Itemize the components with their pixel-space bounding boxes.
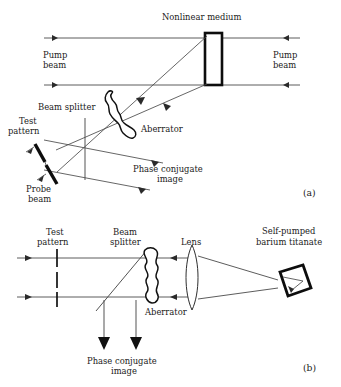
test-pattern-label-a-line2: pattern (8, 126, 40, 136)
lower-beam-b-arrowhead (25, 294, 32, 300)
aberrator-label-b: Aberrator (144, 307, 187, 317)
pump-beam-left-label-line2: beam (43, 60, 66, 70)
probe-beam-bar-a (46, 165, 57, 184)
panel-a-group: Nonlinear medium Pump beam Pump beam Bea… (8, 12, 316, 204)
beam-splitter-label-b-line2: splitter (110, 237, 141, 247)
phase-conjugate-label-a-line2: image (157, 174, 183, 184)
conjugate-return-ray-arrowhead (163, 103, 171, 111)
optics-figure-svg: Nonlinear medium Pump beam Pump beam Bea… (0, 0, 341, 387)
test-pattern-exit-ray (44, 140, 163, 163)
lower-beam-b-right-arrowhead (170, 294, 177, 300)
upper-beam-b-right-arrowhead (170, 255, 177, 261)
upper-beam-b-arrowhead (25, 255, 32, 261)
panel-label-b: (b) (303, 362, 316, 373)
pump-beam-right-label-line2: beam (273, 60, 296, 70)
barium-titanate-crystal (280, 265, 311, 296)
panel-label-a: (a) (303, 187, 316, 198)
test-pattern-bar-a (35, 144, 45, 162)
test-pattern-label-a-line1: Test (19, 116, 37, 126)
lens-to-crystal-lower-ray (198, 288, 278, 299)
aberrator-label-a: Aberrator (140, 124, 183, 134)
lens-to-crystal-upper-ray (198, 256, 278, 280)
self-pumped-label-line1: Self-pumped (262, 226, 316, 236)
nonlinear-medium-label: Nonlinear medium (162, 12, 241, 22)
self-pumped-label-line2: barium titanate (256, 237, 322, 247)
phase-conjugate-output-ray-arrowhead (138, 187, 146, 194)
probe-beam-label-a-line2: beam (28, 194, 51, 204)
pump-beam-lower-left-arrowhead (52, 82, 58, 88)
aberrator-column-b (144, 248, 158, 303)
beam-splitter-label-a: Beam splitter (38, 102, 95, 112)
probe-incoming-ray-arrowhead (136, 97, 145, 105)
test-pattern-label-b-line2: pattern (37, 237, 69, 247)
conjugate-return-ray (56, 84, 207, 150)
phase-conjugate-label-b-line2: image (111, 366, 137, 376)
lens-shape-b (186, 245, 198, 310)
pump-beam-upper-left-arrowhead (52, 35, 58, 41)
probe-beam-label-a-line1: Probe (26, 184, 51, 194)
phase-conjugate-label-a-line1: Phase conjugate (133, 164, 203, 174)
aberrator-blob-a (105, 91, 136, 138)
panel-b-group: Test pattern Beam splitter Lens Self-pum… (17, 226, 322, 376)
nonlinear-medium-rect (205, 33, 222, 85)
bar-connector-a (45, 162, 46, 165)
beam-splitter-label-b-line1: Beam (113, 227, 137, 237)
pump-beam-lower-right-arrowhead (283, 82, 289, 88)
phase-conjugate-arrow-1-b (98, 337, 110, 350)
phase-conjugate-arrow-2-b (130, 337, 142, 350)
pump-beam-upper-right-arrowhead (283, 35, 289, 41)
pump-beam-left-label-line1: Pump (43, 50, 67, 60)
lens-label-b: Lens (181, 237, 201, 247)
test-pattern-label-b-line1: Test (46, 227, 64, 237)
phase-conjugate-label-b-line1: Phase conjugate (87, 356, 157, 366)
figure-root: Nonlinear medium Pump beam Pump beam Bea… (0, 0, 341, 387)
pump-beam-right-label-line1: Pump (273, 50, 297, 60)
